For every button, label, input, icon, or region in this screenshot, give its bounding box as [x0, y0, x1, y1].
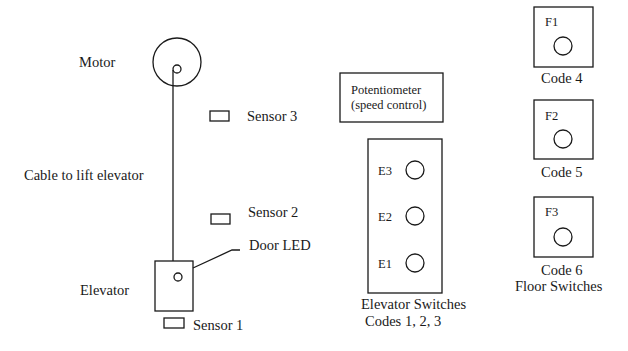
motor: [153, 38, 201, 86]
sensor-2-label: Sensor 2: [248, 204, 298, 220]
sensor-1-icon: [164, 318, 184, 328]
floor-switch-f1: F1: [534, 7, 593, 67]
floor-switch-f3-code: Code 6: [541, 262, 582, 278]
floor-switch-f2-code: Code 5: [541, 164, 582, 180]
elevator-car: [155, 261, 193, 311]
elevator-label: Elevator: [80, 282, 129, 298]
switch-e1-label: E1: [378, 257, 392, 271]
floor-switch-f1-button[interactable]: [554, 37, 572, 55]
switch-e2-button[interactable]: [406, 207, 424, 225]
floor-switch-f3-button[interactable]: [554, 228, 572, 246]
door-led-leader-line: [193, 250, 240, 268]
motor-label: Motor: [79, 54, 115, 70]
floor-switch-f2-label: F2: [545, 109, 558, 123]
floor-switch-f3-box: [534, 197, 593, 257]
elevator-switches-caption: Elevator Switches: [361, 296, 466, 312]
floor-switch-f2-button[interactable]: [554, 130, 572, 148]
floor-switch-f1-label: F1: [545, 15, 558, 29]
elevator-switches-panel: E3 E2 E1: [368, 139, 442, 293]
potentiometer-label: Potentiometer: [351, 83, 422, 97]
floor-switch-f3: F3: [534, 197, 593, 257]
elevator-switches-codes: Codes 1, 2, 3: [365, 313, 441, 329]
sensor-3-label: Sensor 3: [247, 108, 297, 124]
switch-e3-label: E3: [378, 164, 392, 178]
door-led-label: Door LED: [249, 237, 311, 253]
motor-shaft-icon: [173, 65, 181, 73]
motor-pulley-icon: [153, 38, 201, 86]
elevator-diagram: Motor Cable to lift elevator Sensor 3 Se…: [0, 0, 628, 351]
floor-switch-f2: F2: [534, 100, 593, 159]
potentiometer[interactable]: Potentiometer (speed control): [340, 73, 443, 122]
switch-e3-button[interactable]: [406, 161, 424, 179]
switch-e1-button[interactable]: [406, 254, 424, 272]
elevator-box-icon: [155, 261, 193, 311]
door-led-icon: [174, 273, 182, 281]
sensor-3-icon: [210, 111, 229, 121]
floor-switches-caption: Floor Switches: [515, 278, 603, 294]
sensor-1-label: Sensor 1: [193, 317, 243, 333]
floor-switch-f3-label: F3: [545, 205, 558, 219]
switch-e2-label: E2: [378, 210, 392, 224]
cable-label: Cable to lift elevator: [24, 167, 144, 183]
sensor-2-icon: [211, 214, 230, 224]
floor-switch-f1-code: Code 4: [541, 70, 583, 86]
potentiometer-sublabel: (speed control): [351, 98, 426, 112]
